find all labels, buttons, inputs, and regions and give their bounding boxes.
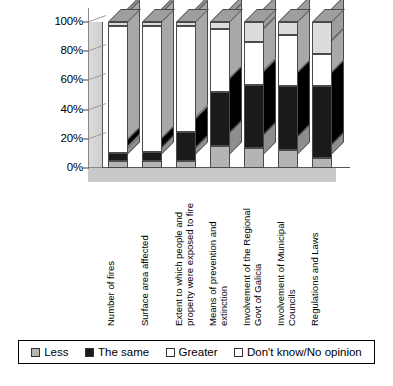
bar-segment[interactable]	[142, 26, 162, 152]
bar-segment[interactable]	[176, 161, 196, 168]
x-axis-label: Surface area affected	[140, 186, 151, 326]
bar-group[interactable]	[244, 22, 264, 168]
y-axis-tick-label: 60%	[61, 75, 83, 87]
bar-segment[interactable]	[244, 42, 264, 84]
bar-segment[interactable]	[244, 148, 264, 168]
bar-group[interactable]	[108, 22, 128, 168]
swatch-dont-know-icon	[234, 348, 243, 357]
bar-group[interactable]	[176, 22, 196, 168]
bar-stack	[176, 22, 196, 168]
x-axis-label: Involvement of Municipal Councils	[276, 186, 297, 326]
bar-group[interactable]	[278, 22, 298, 168]
bar-segment-side	[297, 60, 310, 137]
bar-segment[interactable]	[244, 85, 264, 148]
bar-stack	[142, 22, 162, 168]
bar-segment[interactable]	[312, 22, 332, 54]
bar-group[interactable]	[210, 22, 230, 168]
legend-label-the-same: The same	[98, 346, 149, 358]
y-axis-tick-label: 100%	[54, 16, 83, 28]
bar-group[interactable]	[142, 22, 162, 168]
bar-segment[interactable]	[278, 35, 298, 86]
bar-segment[interactable]	[108, 161, 128, 168]
bar-segment[interactable]	[244, 22, 264, 42]
bar-segment[interactable]	[142, 161, 162, 168]
swatch-less-icon	[31, 348, 40, 357]
bar-series-group	[88, 22, 350, 182]
bar-segment[interactable]	[278, 150, 298, 168]
chart-legend: Less The same Greater Don't know/No opin…	[18, 340, 375, 364]
x-axis-label: Regulations and Laws	[310, 186, 321, 326]
bar-segment[interactable]	[210, 29, 230, 92]
bar-stack	[278, 22, 298, 168]
bar-segment[interactable]	[312, 158, 332, 168]
bar-segment[interactable]	[210, 146, 230, 168]
legend-item-less[interactable]: Less	[31, 346, 68, 358]
x-axis-label: Number of fires	[106, 186, 117, 326]
bar-segment[interactable]	[210, 92, 230, 146]
plot-area: 0%20%40%60%80%100%	[88, 22, 350, 182]
bar-stack	[210, 22, 230, 168]
y-axis-tick-label: 0%	[67, 162, 83, 174]
x-axis-label: Extent to which people and property were…	[174, 186, 195, 326]
bar-segment-side	[263, 59, 276, 135]
bar-segment[interactable]	[108, 22, 128, 26]
legend-item-greater[interactable]: Greater	[166, 346, 218, 358]
x-axis-label: Means of prevention and extinction	[208, 186, 229, 326]
bar-segment[interactable]	[278, 22, 298, 35]
x-axis-label: Involvement of the Regional Govt of Gali…	[242, 186, 263, 326]
bar-stack	[244, 22, 264, 168]
bar-stack	[312, 22, 332, 168]
bar-segment[interactable]	[210, 22, 230, 29]
y-axis-tick-label: 80%	[61, 45, 83, 57]
x-axis-category-labels: Number of firesSurface area affectedExte…	[88, 186, 358, 326]
bar-segment-side	[331, 60, 344, 145]
legend-item-dont-know[interactable]: Don't know/No opinion	[234, 346, 362, 358]
legend-label-dont-know: Don't know/No opinion	[247, 346, 362, 358]
bar-segment[interactable]	[312, 86, 332, 158]
bar-segment[interactable]	[108, 153, 128, 160]
y-axis-tick-label: 40%	[61, 104, 83, 116]
legend-label-greater: Greater	[179, 346, 218, 358]
bar-segment[interactable]	[142, 152, 162, 161]
legend-item-the-same[interactable]: The same	[85, 346, 149, 358]
y-axis-tick-label: 20%	[61, 133, 83, 145]
bar-segment[interactable]	[176, 132, 196, 161]
swatch-the-same-icon	[85, 348, 94, 357]
bar-stack	[108, 22, 128, 168]
bar-segment[interactable]	[278, 86, 298, 150]
bar-segment[interactable]	[176, 26, 196, 131]
bar-segment[interactable]	[142, 22, 162, 26]
swatch-greater-icon	[166, 348, 175, 357]
bar-segment-side	[161, 0, 174, 139]
chart-container: 0%20%40%60%80%100% Number of firesSurfac…	[0, 0, 393, 386]
bar-segment[interactable]	[108, 26, 128, 153]
bar-segment[interactable]	[176, 22, 196, 26]
bar-group[interactable]	[312, 22, 332, 168]
legend-label-less: Less	[44, 346, 68, 358]
bar-segment[interactable]	[312, 54, 332, 86]
bar-segment-side	[127, 0, 140, 140]
